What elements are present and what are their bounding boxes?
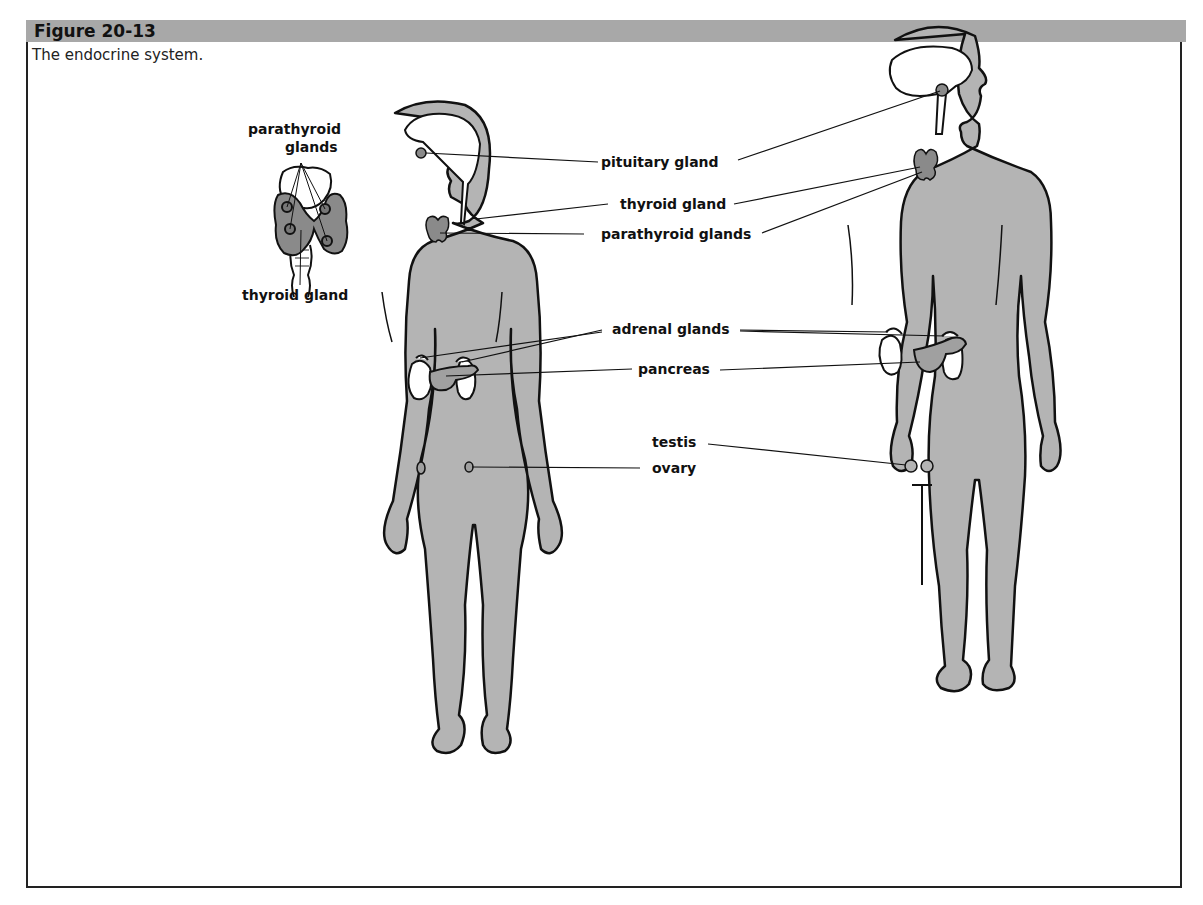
inset-parathyroid-label: parathyroid (248, 121, 341, 137)
inset-thyroid-label: thyroid gland (242, 287, 348, 303)
inset-glands-label: glands (285, 139, 338, 155)
label-adrenal-glands: adrenal glands (612, 321, 730, 337)
label-testis: testis (652, 434, 696, 450)
thyroid-inset: parathyroid glands thyroid gland (242, 121, 348, 303)
label-ovary: ovary (652, 460, 696, 476)
label-pancreas: pancreas (638, 361, 710, 377)
label-parathyroid-glands: parathyroid glands (601, 226, 751, 242)
label-pituitary-gland: pituitary gland (601, 154, 719, 170)
male-figure (848, 27, 1061, 691)
endocrine-diagram: parathyroid glands thyroid gland (0, 0, 1203, 905)
label-thyroid-gland: thyroid gland (620, 196, 726, 212)
female-figure (382, 101, 562, 753)
